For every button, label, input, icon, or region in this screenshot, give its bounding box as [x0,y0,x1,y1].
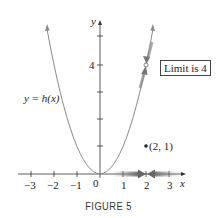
y-tick-4: 4 [89,60,95,71]
x-axis-label: x [180,178,185,189]
x-tick-m3: −3 [24,180,36,191]
x-tick-1: 1 [121,180,127,191]
point-label: (2, 1) [149,141,173,152]
axis-limit-arrows [112,170,180,179]
x-tick-0: 0 [93,178,99,189]
filled-point [144,144,148,148]
figure-caption: FIGURE 5 [16,200,200,212]
y-axis [97,20,103,178]
x-tick-m2: −2 [47,180,59,191]
y-axis-label: y [91,16,96,27]
x-tick-m1: −1 [70,180,82,191]
limit-annotation: Limit is 4 [160,60,211,76]
open-point [144,63,148,67]
x-tick-3: 3 [167,180,173,191]
curve-label: y = h(x) [24,93,60,104]
x-tick-2: 2 [144,180,150,191]
